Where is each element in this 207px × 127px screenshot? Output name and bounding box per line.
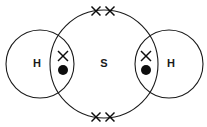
electron-dot: [141, 65, 151, 75]
dot-and-cross-diagram: H S H: [0, 0, 207, 127]
atom-label-hydrogen-left: H: [33, 57, 41, 69]
electron-cross: [58, 51, 68, 61]
atom-label-hydrogen-right: H: [167, 57, 175, 69]
atom-label-sulfur: S: [100, 57, 107, 69]
diagram-canvas: H S H: [0, 0, 207, 127]
electron-cross: [141, 51, 151, 61]
electron-dot: [58, 65, 68, 75]
